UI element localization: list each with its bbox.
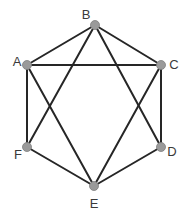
node-b (91, 21, 100, 30)
node-label-b: B (82, 7, 91, 22)
edge-a-e (27, 65, 94, 186)
edge-b-f (27, 25, 95, 147)
node-f (23, 143, 32, 152)
node-d (157, 143, 166, 152)
node-label-c: C (169, 57, 178, 72)
node-label-e: E (90, 196, 99, 211)
node-e (90, 182, 99, 191)
nodes-group (23, 21, 166, 191)
labels-group: ABCDEF (13, 7, 179, 211)
edge-b-d (95, 25, 161, 147)
edges-group (27, 25, 161, 186)
graph-diagram: ABCDEF (0, 0, 187, 215)
node-a (23, 61, 32, 70)
node-label-a: A (13, 54, 22, 69)
node-c (157, 61, 166, 70)
node-label-d: D (167, 144, 176, 159)
node-label-f: F (14, 147, 22, 162)
